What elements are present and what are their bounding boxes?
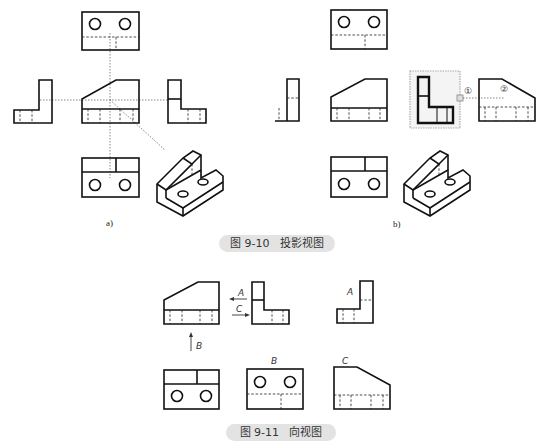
front-view bbox=[331, 79, 387, 121]
view-c bbox=[334, 367, 390, 409]
marker-1: ① bbox=[464, 86, 472, 96]
front-view bbox=[164, 282, 219, 324]
view-a bbox=[337, 281, 373, 323]
right-side-view bbox=[14, 80, 52, 123]
view-b-label: B bbox=[271, 356, 277, 366]
arrow-c-label: C bbox=[236, 304, 243, 314]
view-b bbox=[247, 369, 303, 409]
top-view bbox=[331, 10, 387, 49]
bottom-view bbox=[82, 158, 139, 197]
drawing-canvas: a) bbox=[0, 0, 550, 447]
projection-lines bbox=[40, 33, 168, 178]
panel-a-label: a) bbox=[106, 218, 113, 228]
bottom-view bbox=[331, 157, 387, 197]
panel-a: a) bbox=[14, 12, 223, 228]
resize-handle[interactable] bbox=[457, 95, 463, 101]
right-side-view bbox=[275, 79, 299, 121]
isometric-view bbox=[157, 151, 223, 216]
top-view bbox=[164, 370, 219, 409]
arrow-b bbox=[189, 332, 193, 351]
isometric-view bbox=[404, 151, 470, 216]
arrow-a-label: A bbox=[237, 288, 244, 298]
arrow-b-label: B bbox=[196, 341, 202, 351]
view-a-label: A bbox=[346, 287, 353, 297]
panel-b: ① ② b) bbox=[275, 10, 535, 229]
view-c-label: C bbox=[342, 356, 349, 366]
figure-9-10-caption: 图 9-10 投影视图 bbox=[219, 235, 335, 252]
top-view bbox=[82, 12, 139, 50]
left-view bbox=[252, 282, 289, 324]
panel-b-label: b) bbox=[393, 219, 401, 229]
figure-9-11: A C B A B bbox=[164, 281, 390, 409]
figure-9-11-caption: 图 9-11 向视图 bbox=[226, 424, 336, 441]
left-side-view bbox=[168, 80, 206, 123]
marker-2: ② bbox=[500, 84, 508, 94]
front-view bbox=[82, 80, 139, 123]
